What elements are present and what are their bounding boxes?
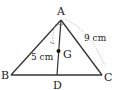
label-g: G: [63, 48, 72, 61]
label-a: A: [56, 5, 66, 18]
label-b: B: [1, 69, 9, 82]
dimension-label-ac: 9 cm: [84, 33, 107, 43]
side-ab: [11, 20, 61, 75]
median-ad: [57, 20, 61, 75]
triangle-diagram: A B C D G 5 cm 9 cm: [0, 0, 120, 90]
dimension-arc-ag: [53, 24, 56, 44]
dimension-label-ag: 5 cm: [31, 52, 54, 62]
label-c: C: [104, 71, 112, 84]
centroid-point-g: [57, 49, 61, 53]
label-d: D: [53, 79, 62, 90]
